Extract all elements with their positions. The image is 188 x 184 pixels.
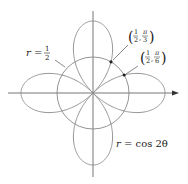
svg-text:,: , [139, 34, 141, 42]
svg-text:π: π [142, 28, 148, 36]
polar-graph: r = 1 2 ( 1 2 , π 3 ) ( 1 2 , π 6 ) r = … [0, 0, 188, 184]
pointer-arrow-pi-6 [126, 66, 138, 74]
circle-equation-label: r = 1 2 [26, 45, 50, 62]
svg-text:r = cos 2θ: r = cos 2θ [116, 138, 168, 149]
svg-text:2: 2 [45, 54, 49, 62]
pointer-arrow-circle [55, 60, 65, 67]
rose-equation-label: r = cos 2θ [116, 138, 168, 149]
svg-text:6: 6 [155, 57, 159, 65]
intersection-point-pi-6 [123, 73, 126, 76]
svg-text:1: 1 [146, 49, 150, 57]
point-label-pi-6: ( 1 2 , π 6 ) [140, 49, 166, 66]
svg-text:): ) [161, 50, 166, 66]
x-axis-arrow-icon [172, 91, 179, 96]
svg-text:1: 1 [45, 45, 49, 53]
svg-text:(: ( [128, 29, 133, 45]
point-label-pi-3: ( 1 2 , π 3 ) [128, 28, 154, 45]
svg-text:3: 3 [143, 36, 147, 44]
svg-text:): ) [149, 29, 154, 45]
pointer-arrow-pi-3 [113, 45, 128, 60]
svg-text:2: 2 [146, 57, 150, 65]
svg-text:r =: r = [26, 47, 42, 58]
svg-text:(: ( [140, 50, 145, 66]
svg-text:,: , [151, 55, 153, 63]
svg-text:1: 1 [134, 28, 138, 36]
svg-text:2: 2 [134, 36, 138, 44]
svg-text:π: π [154, 49, 160, 57]
intersection-point-pi-3 [109, 60, 112, 63]
